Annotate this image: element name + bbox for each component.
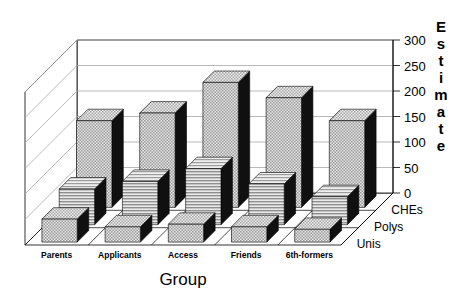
bar-front-face <box>168 224 203 242</box>
bar-front-face <box>105 227 140 242</box>
bar-front-face <box>232 227 267 242</box>
bar-unis-parents <box>42 208 89 242</box>
x-axis-category-label: 6th-formers <box>286 250 334 260</box>
depth-axis-label-ches: CHEs <box>391 203 422 217</box>
depth-axis-label-polys: Polys <box>374 220 403 234</box>
y-axis-title-letter: m <box>434 86 447 103</box>
bar-side-face <box>302 86 313 207</box>
bar-side-face <box>112 109 123 207</box>
y-axis-tick-label: 50 <box>404 161 418 176</box>
x-axis-category-label: Parents <box>41 250 72 260</box>
bar-side-face <box>238 71 249 207</box>
y-axis-tick-label: 200 <box>404 84 426 99</box>
x-axis-category-label: Applicants <box>98 250 142 260</box>
y-axis-title: Estimate <box>428 18 454 154</box>
y-axis-title-letter: E <box>436 18 446 35</box>
bar-chart-3d: 050100150200250300ParentsApplicantsAcces… <box>0 0 458 305</box>
bar-side-face <box>365 109 376 207</box>
y-axis-title-letter: t <box>439 120 444 137</box>
y-axis-title-letter: e <box>437 137 445 154</box>
bar-side-face <box>221 157 232 225</box>
y-axis-title-letter: i <box>439 69 443 86</box>
bar-front-face <box>295 229 330 242</box>
y-axis-tick-label: 250 <box>404 59 426 74</box>
y-axis-title-letter: s <box>437 35 445 52</box>
chart-container: 050100150200250300ParentsApplicantsAcces… <box>0 0 458 305</box>
bar-front-face <box>42 219 77 242</box>
y-axis-tick-label: 0 <box>404 186 411 201</box>
y-axis-tick-label: 150 <box>404 110 426 125</box>
x-axis-title: Group <box>159 270 206 289</box>
y-axis-tick-label: 300 <box>404 33 426 48</box>
y-axis-tick-label: 100 <box>404 135 426 150</box>
bar-unis-access <box>168 213 215 242</box>
y-axis-title-letter: a <box>437 103 445 120</box>
bar-side-face <box>175 102 186 208</box>
depth-axis-label-unis: Unis <box>357 237 381 251</box>
x-axis-category-label: Access <box>168 250 198 260</box>
x-axis-category-label: Friends <box>231 250 262 260</box>
y-axis-title-letter: t <box>439 52 444 69</box>
